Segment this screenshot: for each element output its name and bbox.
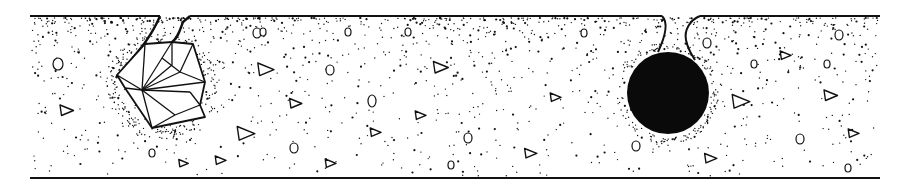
expanding-aggregate-particle [117, 42, 205, 128]
cross-section-drawing [0, 0, 903, 192]
corroded-rebar-cross-section [627, 52, 709, 134]
concrete-spalling-illustration [0, 0, 903, 192]
